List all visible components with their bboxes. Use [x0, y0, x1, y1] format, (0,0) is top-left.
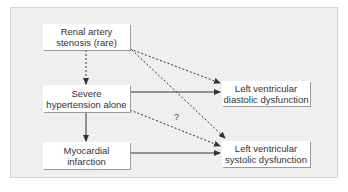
node-myocardial-infarction: Myocardial infarction [43, 142, 130, 169]
node-lv-systolic-dysfunction: Left ventricular systolic dysfunction [222, 141, 310, 167]
edge-renal-systolic [132, 50, 225, 138]
node-severe-hypertension: Severe hypertension alone [43, 85, 130, 112]
node-lv-diastolic-dysfunction: Left ventricular diastolic dysfunction [222, 81, 310, 106]
node-renal-artery-stenosis: Renal artery stenosis (rare) [43, 24, 130, 50]
edge-renal-diastolic [130, 49, 220, 83]
uncertain-link-label: ? [174, 112, 179, 122]
